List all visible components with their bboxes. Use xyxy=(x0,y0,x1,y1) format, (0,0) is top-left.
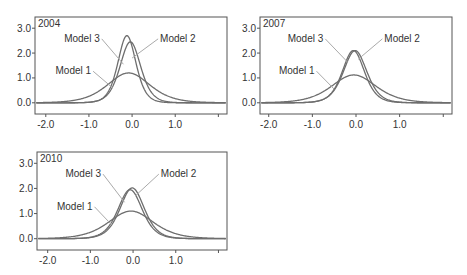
curve-model-1 xyxy=(38,211,225,238)
y-tick-label: 2.0 xyxy=(17,48,31,59)
x-tick-label: -2.0 xyxy=(39,255,57,266)
series-label: Model 3 xyxy=(65,168,101,179)
curve-model-3 xyxy=(38,190,225,239)
x-tick-label: 1.0 xyxy=(393,119,407,130)
y-tick-label: 3.0 xyxy=(19,158,33,169)
y-tick-label: 1.0 xyxy=(17,72,31,83)
series-label: Model 3 xyxy=(288,33,324,44)
panel-title: 2010 xyxy=(40,153,63,164)
leader-line xyxy=(132,39,158,58)
y-tick-label: 0.0 xyxy=(242,97,256,108)
leader-line xyxy=(135,174,159,196)
panel-title: 2007 xyxy=(263,18,286,29)
panel-title: 2004 xyxy=(38,18,61,29)
series-label: Model 3 xyxy=(64,33,100,44)
y-tick-label: 1.0 xyxy=(19,208,33,219)
x-tick-label: -1.0 xyxy=(304,119,322,130)
x-tick-label: -1.0 xyxy=(82,255,100,266)
curve-model-2 xyxy=(261,51,450,103)
x-tick-label: 0.0 xyxy=(125,119,139,130)
curve-model-2 xyxy=(38,188,225,239)
x-tick-label: 1.0 xyxy=(169,255,183,266)
curve-model-3 xyxy=(261,51,450,103)
y-tick-label: 1.0 xyxy=(242,72,256,83)
y-tick-label: 0.0 xyxy=(19,233,33,244)
curve-model-1 xyxy=(36,73,225,103)
x-tick-label: 1.0 xyxy=(168,119,182,130)
series-label: Model 1 xyxy=(57,201,93,212)
chart-panel-2004: 20040.01.02.03.0-2.0-1.00.01.0Model 3Mod… xyxy=(17,17,227,130)
x-tick-label: -2.0 xyxy=(260,119,278,130)
chart-panel-2010: 20100.01.02.03.0-2.0-1.00.01.0Model 3Mod… xyxy=(19,152,227,266)
y-tick-label: 0.0 xyxy=(17,97,31,108)
leader-line xyxy=(93,71,113,88)
leader-line xyxy=(103,174,124,202)
x-tick-label: 0.0 xyxy=(349,119,363,130)
series-label: Model 2 xyxy=(160,33,196,44)
leader-line xyxy=(325,39,347,62)
leader-line xyxy=(317,71,335,89)
x-tick-label: 0.0 xyxy=(126,255,140,266)
x-tick-label: -2.0 xyxy=(37,119,55,130)
figure: 20040.01.02.03.0-2.0-1.00.01.0Model 3Mod… xyxy=(0,0,467,275)
y-tick-label: 2.0 xyxy=(242,48,256,59)
series-label: Model 2 xyxy=(161,168,197,179)
chart-panel-2007: 20070.01.02.03.0-2.0-1.00.01.0Model 3Mod… xyxy=(242,17,452,130)
x-tick-label: -1.0 xyxy=(80,119,98,130)
y-tick-label: 2.0 xyxy=(19,183,33,194)
series-label: Model 2 xyxy=(384,33,420,44)
y-tick-label: 3.0 xyxy=(242,23,256,34)
leader-line xyxy=(358,39,382,59)
series-label: Model 1 xyxy=(56,65,92,76)
series-label: Model 1 xyxy=(279,65,315,76)
leader-line xyxy=(95,207,112,225)
y-tick-label: 3.0 xyxy=(17,23,31,34)
curve-model-1 xyxy=(261,75,450,103)
